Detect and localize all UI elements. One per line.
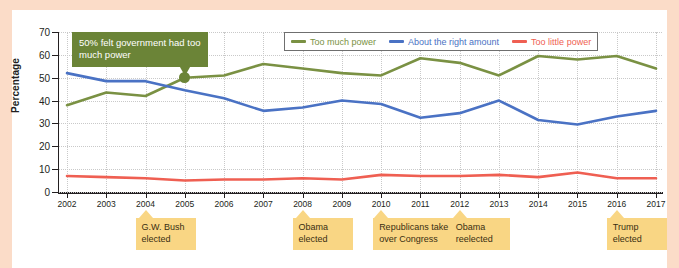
- y-tick-mark: [52, 123, 59, 124]
- event-annotation-tail-icon: [139, 210, 153, 218]
- callout-text: 50% felt government had too much power: [79, 37, 200, 60]
- x-tick-label: 2014: [529, 199, 548, 209]
- y-tick-mark: [52, 169, 59, 170]
- event-annotation: Trump elected: [607, 218, 667, 250]
- event-annotation: G.W. Bush elected: [136, 218, 196, 250]
- legend-swatch-icon: [512, 40, 527, 43]
- legend-swatch-icon: [389, 40, 404, 43]
- y-tick-label: 50: [12, 72, 50, 83]
- x-tick-label: 2004: [136, 199, 155, 209]
- x-tick-label: 2003: [97, 199, 116, 209]
- y-tick-label: 40: [12, 95, 50, 106]
- chart-legend: Too much powerAbout the right amountToo …: [284, 32, 598, 51]
- legend-item[interactable]: Too much power: [291, 37, 376, 47]
- x-tick-label: 2008: [293, 199, 312, 209]
- x-tick-label: 2012: [450, 199, 469, 209]
- y-tick-label: 70: [12, 27, 50, 38]
- y-tick-mark: [52, 192, 59, 193]
- event-annotation: Obama reelected: [450, 218, 510, 250]
- x-tick-label: 2013: [489, 199, 508, 209]
- chart-figure: Percentage 010203040506070 2002200320042…: [12, 10, 667, 268]
- x-tick-label: 2009: [332, 199, 351, 209]
- legend-label: Too much power: [310, 37, 376, 47]
- y-tick-label: 60: [12, 49, 50, 60]
- legend-label: Too little power: [531, 37, 591, 47]
- series-line: [67, 73, 656, 124]
- y-tick-label: 0: [12, 187, 50, 198]
- y-tick-label: 20: [12, 141, 50, 152]
- x-tick-label: 2017: [647, 199, 666, 209]
- x-tick-label: 2007: [254, 199, 273, 209]
- x-tick-label: 2010: [372, 199, 391, 209]
- y-tick-mark: [52, 55, 59, 56]
- legend-swatch-icon: [291, 40, 306, 43]
- legend-item[interactable]: Too little power: [512, 37, 591, 47]
- x-tick-label: 2011: [411, 199, 429, 209]
- y-tick-mark: [52, 32, 59, 33]
- event-annotation: Obama elected: [293, 218, 353, 250]
- gridline-horizontal: [59, 192, 662, 193]
- x-tick-label: 2016: [607, 199, 626, 209]
- y-tick-mark: [52, 101, 59, 102]
- y-tick-mark: [52, 146, 59, 147]
- y-tick-label: 30: [12, 118, 50, 129]
- x-tick-label: 2005: [175, 199, 194, 209]
- event-annotation-tail-icon: [610, 210, 624, 218]
- event-annotation-tail-icon: [374, 210, 388, 218]
- y-tick-mark: [52, 78, 59, 79]
- x-tick-label: 2002: [58, 199, 77, 209]
- x-tick-label: 2006: [215, 199, 234, 209]
- event-annotation-tail-icon: [296, 210, 310, 218]
- y-tick-label: 10: [12, 164, 50, 175]
- legend-item[interactable]: About the right amount: [389, 37, 499, 47]
- event-annotation-tail-icon: [453, 210, 467, 218]
- x-tick-label: 2015: [568, 199, 587, 209]
- series-line: [67, 173, 656, 181]
- legend-label: About the right amount: [408, 37, 499, 47]
